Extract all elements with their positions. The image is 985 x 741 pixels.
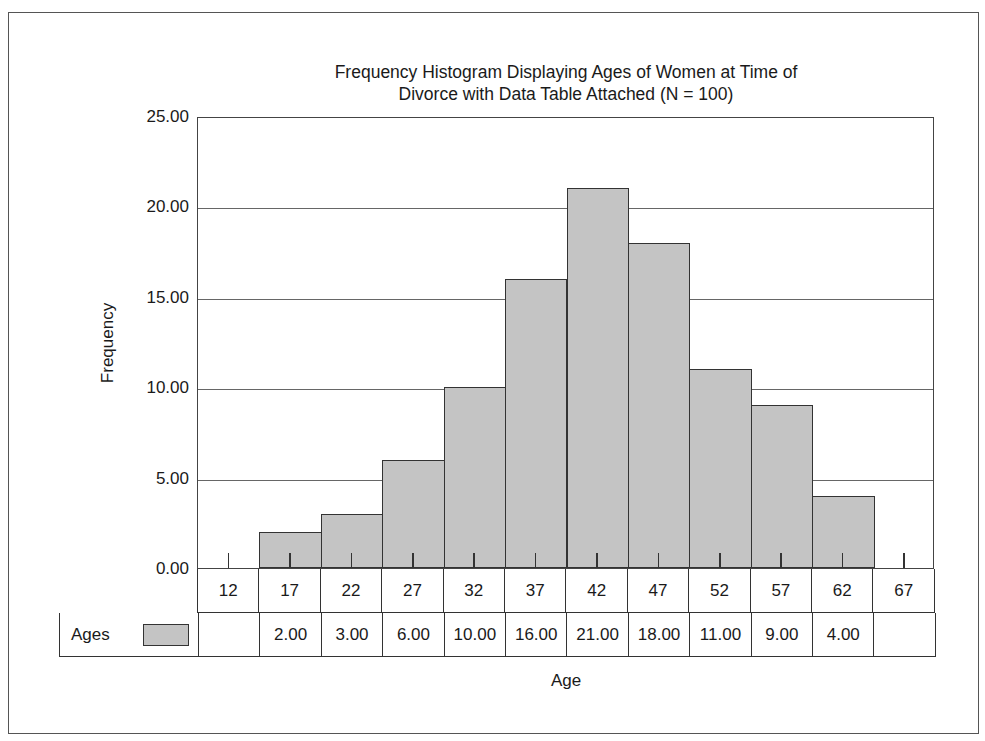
histogram-bar [444,387,506,568]
histogram-bar [751,405,813,568]
x-category-label: 52 [689,569,750,612]
plot-area [197,117,934,569]
y-tick-label: 10.00 [119,379,189,397]
legend-cell: Ages [60,613,199,656]
y-tick-label: 5.00 [119,470,189,488]
data-table-value: 9.00 [752,613,813,656]
histogram-bar [567,188,629,568]
y-tick-label: 20.00 [119,198,189,216]
histogram-bar [628,243,690,568]
x-tick-mark [903,553,905,568]
x-axis-label: Age [551,671,581,691]
histogram-bar [382,460,444,568]
x-tick-mark [658,553,660,568]
x-category-label: 47 [628,569,689,612]
x-tick-mark [535,553,537,568]
y-axis-label: Frequency [98,303,118,383]
data-table-row: Ages 2.003.006.0010.0016.0021.0018.0011.… [59,613,936,657]
gridline [198,208,933,209]
y-tick-label: 15.00 [119,289,189,307]
x-category-label: 22 [321,569,382,612]
x-tick-mark [780,553,782,568]
x-category-label: 67 [873,569,934,612]
x-category-label: 17 [259,569,320,612]
data-table-value [199,613,260,656]
x-category-label: 32 [444,569,505,612]
data-table-value: 21.00 [567,613,628,656]
x-tick-mark [412,553,414,568]
chart-title-line-2: Divorce with Data Table Attached (N = 10… [196,83,936,105]
data-table-value [874,613,935,656]
x-category-label: 57 [751,569,812,612]
y-tick-label: 0.00 [119,560,189,578]
x-axis-category-row: 121722273237424752576267 [197,569,935,613]
x-tick-mark [228,553,230,568]
x-tick-mark [473,553,475,568]
data-table-value: 16.00 [506,613,567,656]
histogram-bar [689,369,751,568]
data-table-value: 2.00 [260,613,321,656]
x-category-label: 27 [382,569,443,612]
x-tick-mark [842,553,844,568]
legend-label: Ages [71,625,143,645]
chart-title-line-1: Frequency Histogram Displaying Ages of W… [196,61,936,83]
chart-title: Frequency Histogram Displaying Ages of W… [196,61,936,105]
x-category-label: 12 [198,569,259,612]
y-tick-label: 25.00 [119,108,189,126]
x-category-label: 37 [505,569,566,612]
legend-swatch [143,624,189,646]
x-category-label: 42 [566,569,627,612]
data-table-value: 10.00 [445,613,506,656]
x-tick-mark [289,553,291,568]
data-table-value: 6.00 [383,613,444,656]
data-table-value: 11.00 [690,613,751,656]
data-table-value: 18.00 [629,613,690,656]
histogram-bar [505,279,567,568]
x-tick-mark [351,553,353,568]
data-table-value: 4.00 [813,613,874,656]
x-category-label: 62 [812,569,873,612]
x-tick-mark [596,553,598,568]
x-tick-mark [719,553,721,568]
data-table-value: 3.00 [322,613,383,656]
